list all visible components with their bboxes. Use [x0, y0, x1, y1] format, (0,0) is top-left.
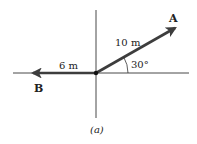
vector-diagram: A 10 m 30° 6 m B (a) — [0, 0, 197, 144]
vector-a-magnitude: 10 m — [115, 37, 141, 48]
angle-arc — [124, 57, 128, 73]
figure-caption: (a) — [90, 124, 104, 135]
vector-b-magnitude: 6 m — [59, 60, 79, 71]
vector-a-label: A — [168, 12, 178, 25]
vector-b-label: B — [34, 82, 43, 95]
origin-point — [94, 71, 98, 75]
angle-label: 30° — [131, 59, 149, 70]
